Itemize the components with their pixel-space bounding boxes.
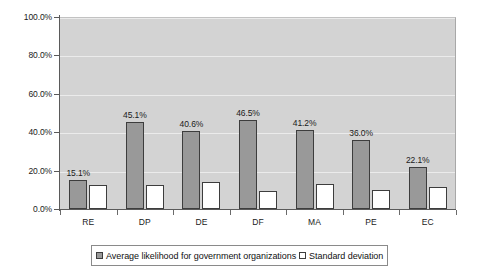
bar-re-series1 [69, 180, 87, 209]
x-axis-labels: REDPDEDFMAPEEC [60, 217, 456, 231]
x-tick-label-ma: MA [286, 217, 343, 227]
bar-chart-figure: 0.0%20.0%40.0%60.0%80.0%100.0% 15.1%45.1… [0, 0, 490, 274]
y-axis-labels: 0.0%20.0%40.0%60.0%80.0%100.0% [0, 17, 52, 209]
x-tick-mark [117, 210, 118, 215]
bar-df-series2 [259, 191, 277, 209]
legend-entry-average-likelihood: Average likelihood for government organi… [96, 251, 296, 261]
bar-value-label-dp: 45.1% [118, 110, 152, 120]
x-tick-mark [230, 210, 231, 215]
bar-group-ma: 41.2% [296, 18, 334, 209]
y-tick-label: 60.0% [0, 89, 52, 98]
bar-ec-series2 [429, 187, 447, 209]
bar-value-label-df: 46.5% [231, 108, 265, 118]
legend-label-standard-deviation: Standard deviation [309, 251, 383, 261]
y-tick-label: 40.0% [0, 128, 52, 137]
bar-de-series2 [202, 182, 220, 209]
bar-group-dp: 45.1% [126, 18, 164, 209]
bar-df-series1 [239, 120, 257, 209]
bar-ma-series1 [296, 130, 314, 209]
bar-pe-series2 [372, 190, 390, 209]
bar-value-label-re: 15.1% [61, 168, 95, 178]
x-tick-mark [60, 210, 61, 215]
bar-de-series1 [182, 131, 200, 209]
bar-dp-series1 [126, 122, 144, 209]
y-tick-label: 80.0% [0, 51, 52, 60]
legend-entry-standard-deviation: Standard deviation [299, 251, 383, 261]
x-tick-mark [173, 210, 174, 215]
bar-group-ec: 22.1% [409, 18, 447, 209]
bar-value-label-ec: 22.1% [401, 155, 435, 165]
bar-ec-series1 [409, 167, 427, 209]
bar-group-de: 40.6% [182, 18, 220, 209]
x-tick-mark [399, 210, 400, 215]
x-tick-label-df: DF [230, 217, 287, 227]
y-tick-label: 100.0% [0, 13, 52, 22]
bar-re-series2 [89, 185, 107, 209]
bar-group-pe: 36.0% [352, 18, 390, 209]
y-tick-label: 20.0% [0, 166, 52, 175]
bar-group-df: 46.5% [239, 18, 277, 209]
x-tick-mark [456, 210, 457, 215]
legend-swatch-filled-square-icon [96, 252, 103, 259]
y-tick-label: 0.0% [0, 205, 52, 214]
x-tick-mark [286, 210, 287, 215]
x-tick-label-pe: PE [343, 217, 400, 227]
chart-legend: Average likelihood for government organi… [91, 245, 388, 266]
bar-ma-series2 [316, 184, 334, 209]
x-tick-label-dp: DP [117, 217, 174, 227]
bar-pe-series1 [352, 140, 370, 209]
legend-swatch-empty-square-icon [299, 252, 306, 259]
x-tick-label-ec: EC [399, 217, 456, 227]
x-axis-line [59, 209, 456, 210]
x-tick-label-re: RE [60, 217, 117, 227]
bar-value-label-de: 40.6% [174, 119, 208, 129]
bar-group-re: 15.1% [69, 18, 107, 209]
legend-label-average-likelihood: Average likelihood for government organi… [106, 251, 296, 261]
bar-dp-series2 [146, 185, 164, 209]
bar-value-label-ma: 41.2% [288, 118, 322, 128]
x-tick-label-de: DE [173, 217, 230, 227]
x-tick-mark [343, 210, 344, 215]
plot-area: 15.1%45.1%40.6%46.5%41.2%36.0%22.1% [60, 17, 456, 209]
bars-layer: 15.1%45.1%40.6%46.5%41.2%36.0%22.1% [60, 18, 455, 209]
bar-value-label-pe: 36.0% [344, 128, 378, 138]
